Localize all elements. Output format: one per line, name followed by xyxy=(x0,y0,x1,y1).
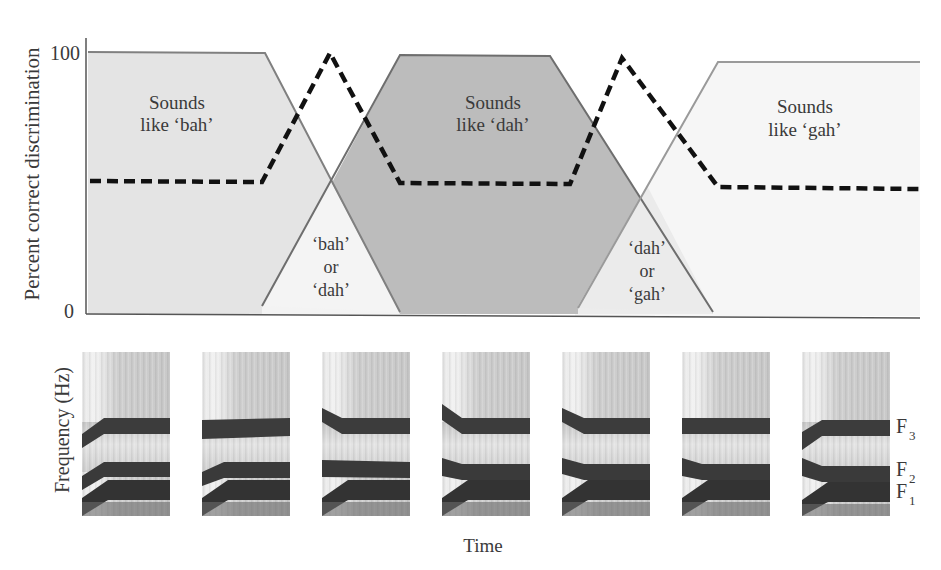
spectrogram-row xyxy=(82,352,890,516)
svg-text:2: 2 xyxy=(909,471,916,486)
spectrogram-5 xyxy=(562,352,650,516)
formant-label-f3: F 3 xyxy=(896,415,916,443)
spectrogram-3 xyxy=(322,352,410,516)
dah-or-gah-line2: or xyxy=(640,261,655,281)
y-axis-label: Percent correct discrimination xyxy=(20,47,44,301)
bah-or-dah-line2: or xyxy=(324,257,339,277)
y-tick-100: 100 xyxy=(50,42,80,64)
spectrogram-4 xyxy=(442,352,530,516)
dah-or-gah-line1: ‘dah’ xyxy=(628,238,666,258)
svg-text:F: F xyxy=(896,415,907,437)
y-tick-0: 0 xyxy=(64,300,74,322)
bah-or-dah-line1: ‘bah’ xyxy=(312,234,350,254)
spectrogram-6 xyxy=(682,352,770,516)
svg-text:F: F xyxy=(896,458,907,480)
spectrogram-2 xyxy=(202,352,290,516)
plot-area xyxy=(86,38,920,318)
svg-text:1: 1 xyxy=(909,493,916,508)
speech-perception-chart: Percent correct discrimination 100 0 Sou… xyxy=(0,0,941,570)
bah-label-line2: like ‘bah’ xyxy=(140,114,213,135)
spectrogram-7 xyxy=(802,352,890,516)
frequency-axis-label: Frequency (Hz) xyxy=(51,367,74,493)
gah-label-line2: like ‘gah’ xyxy=(768,119,841,140)
svg-text:3: 3 xyxy=(909,428,916,443)
gah-label-line1: Sounds xyxy=(777,96,833,117)
svg-text:F: F xyxy=(896,480,907,502)
dah-or-gah-line3: ‘gah’ xyxy=(628,284,666,304)
bah-label-line1: Sounds xyxy=(149,92,205,113)
spectrogram-1 xyxy=(82,352,170,516)
time-axis-label: Time xyxy=(463,535,502,556)
bah-or-dah-line3: ‘dah’ xyxy=(312,280,350,300)
dah-label-line2: like ‘dah’ xyxy=(456,114,529,135)
dah-label-line1: Sounds xyxy=(465,92,521,113)
